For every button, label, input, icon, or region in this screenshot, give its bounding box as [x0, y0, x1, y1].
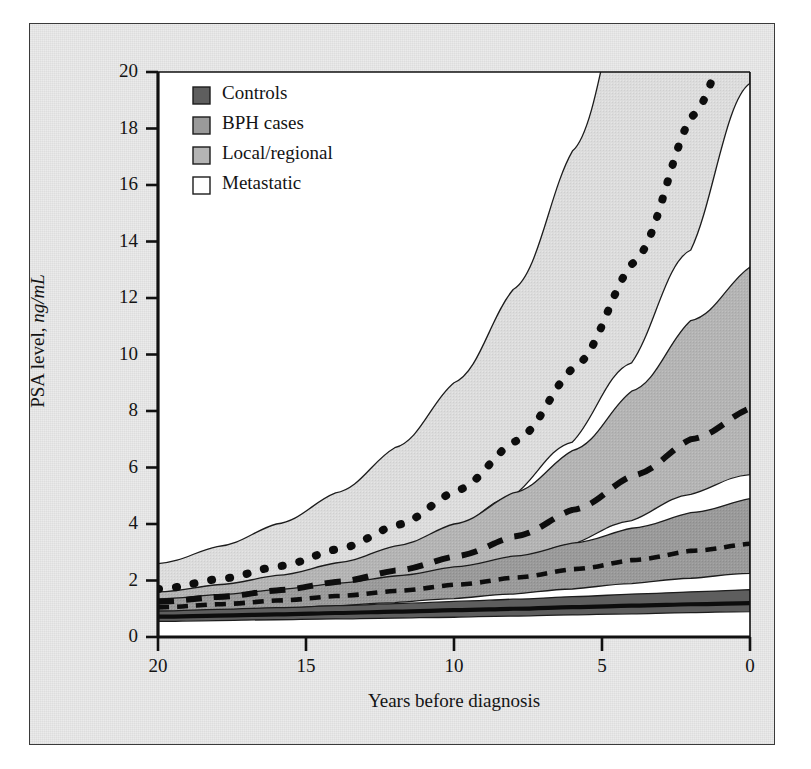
figure-page: 02468101214161820 20151050 PSA level, ng… [0, 0, 811, 769]
legend-swatch-metastatic [193, 177, 210, 194]
x-axis-ticks [158, 637, 750, 651]
psa-level-chart [0, 0, 811, 769]
legend-swatch-bph-cases [193, 117, 210, 134]
legend-swatch-controls [193, 87, 210, 104]
legend-swatch-local-regional [193, 147, 210, 164]
y-axis-ticks [146, 72, 158, 637]
